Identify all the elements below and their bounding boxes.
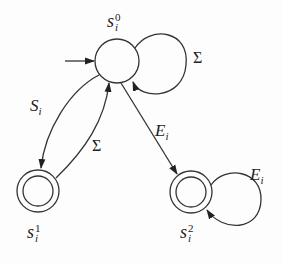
automaton-diagram: s0i s1i s2i Σ Si Σ Ei Ei <box>0 0 283 265</box>
state-s1-inner <box>23 176 53 206</box>
label-s-sub: i <box>39 105 42 117</box>
s0-to-s2-edge <box>121 83 177 174</box>
state-s1-sub: i <box>35 233 41 243</box>
s0-to-s1-label: Si <box>30 97 42 117</box>
state-s1-label: s1i <box>27 223 41 243</box>
state-s2-base: s <box>180 222 187 242</box>
s0-to-s1-edge <box>41 75 99 168</box>
state-s1-base: s <box>27 222 34 242</box>
state-s2-sub: i <box>188 233 194 243</box>
state-s0-base: s <box>107 11 114 31</box>
s1-to-s0-edge <box>56 83 109 178</box>
diagram-graphics <box>0 0 283 265</box>
label-s-base: S <box>30 96 39 115</box>
s1-to-s0-label: Σ <box>92 138 101 154</box>
s0-loop-label: Σ <box>193 50 202 66</box>
state-s0-circle <box>95 39 139 83</box>
state-s0-label: s0i <box>107 12 121 32</box>
s0-to-s2-label: Ei <box>155 122 168 142</box>
label-e-loop-sub: i <box>260 174 263 186</box>
label-e-base: E <box>155 121 165 140</box>
s2-loop-label: Ei <box>250 166 263 186</box>
label-e-sub: i <box>165 130 168 142</box>
state-s2-inner <box>176 177 206 207</box>
s0-self-loop <box>133 34 186 94</box>
label-e-loop-base: E <box>250 165 260 184</box>
state-s2-label: s2i <box>180 223 194 243</box>
state-s0-sub: i <box>115 22 121 32</box>
